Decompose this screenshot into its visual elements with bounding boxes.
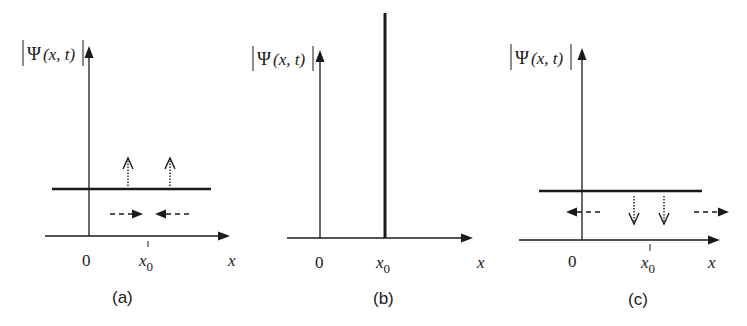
down-arrow-icon: [629, 196, 639, 224]
x-axis-label: x: [227, 251, 236, 270]
psi-args: (x, t): [43, 45, 75, 64]
x0-label: x0: [138, 251, 153, 274]
wavefunction-figure: Ψ (x, t) 0 x0: [0, 0, 747, 326]
up-arrow-icon: [165, 158, 175, 186]
psi-symbol: Ψ: [257, 48, 271, 69]
down-arrow-icon: [659, 196, 669, 224]
y-axis-label: Ψ (x, t): [511, 44, 571, 70]
right-arrow-icon: [110, 210, 143, 219]
psi-args: (x, t): [273, 50, 305, 69]
x-axis-arrowhead-icon: [461, 234, 473, 243]
panel-caption: (b): [373, 289, 394, 308]
x0-label: x0: [375, 253, 390, 276]
origin-label: 0: [568, 252, 577, 271]
y-axis-arrowhead-icon: [578, 48, 587, 60]
x-axis-label: x: [476, 253, 485, 272]
right-arrow-icon: [694, 208, 729, 217]
psi-symbol: Ψ: [27, 43, 41, 64]
origin-label: 0: [82, 251, 91, 270]
panel-c: Ψ (x, t) 0 x0 x (c): [511, 44, 729, 309]
x0-label: x0: [640, 253, 655, 276]
panel-caption: (a): [112, 288, 133, 307]
left-arrow-icon: [155, 210, 190, 219]
psi-args: (x, t): [531, 49, 563, 68]
up-arrow-icon: [123, 158, 133, 186]
y-axis-arrowhead-icon: [85, 46, 94, 58]
left-arrow-icon: [566, 208, 601, 217]
panel-a: Ψ (x, t) 0 x0: [23, 40, 236, 307]
y-axis-label: Ψ (x, t): [23, 40, 83, 66]
panel-b: Ψ (x, t) 0 x0 x (b): [253, 13, 485, 308]
psi-symbol: Ψ: [515, 47, 529, 68]
y-axis-label: Ψ (x, t): [253, 46, 313, 71]
origin-label: 0: [315, 253, 324, 272]
panel-caption: (c): [628, 290, 648, 309]
x-axis-label: x: [707, 253, 716, 272]
y-axis-arrowhead-icon: [316, 50, 325, 62]
x-axis-arrowhead-icon: [218, 232, 230, 241]
x-axis-arrowhead-icon: [708, 236, 720, 245]
